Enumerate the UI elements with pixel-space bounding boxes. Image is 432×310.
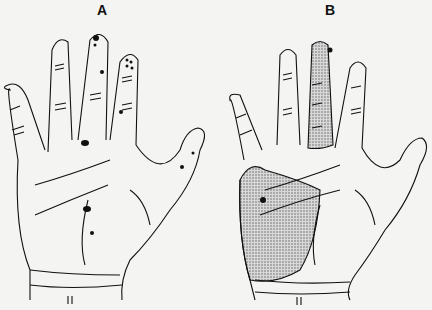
hand-diagram-figure: A B [0, 0, 432, 310]
hand-a [4, 34, 204, 304]
hand-b-shaded-area [240, 42, 333, 282]
hands-illustration [0, 0, 432, 310]
